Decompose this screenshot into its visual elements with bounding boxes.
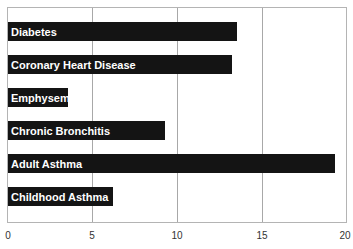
bar-chronic-bronchitis: Chronic Bronchitis (8, 121, 165, 140)
x-tick-15: 15 (256, 230, 267, 241)
bar-label: Childhood Asthma (8, 191, 108, 203)
gridline-15 (262, 8, 263, 222)
bar-diabetes: Diabetes (8, 22, 237, 41)
bar-coronary-heart-disease: Coronary Heart Disease (8, 55, 232, 74)
bar-label: Adult Asthma (8, 158, 82, 170)
bar-emphysema: Emphysema (8, 88, 68, 107)
bar-childhood-asthma: Childhood Asthma (8, 187, 113, 206)
bar-label: Emphysema (8, 92, 76, 104)
plot-area: Diabetes Coronary Heart Disease Emphysem… (7, 7, 347, 223)
x-tick-0: 0 (5, 230, 11, 241)
bar-label: Coronary Heart Disease (8, 59, 136, 71)
bar-adult-asthma: Adult Asthma (8, 154, 335, 173)
x-tick-20: 20 (339, 230, 350, 241)
x-tick-5: 5 (89, 230, 95, 241)
bar-label: Diabetes (8, 26, 57, 38)
x-tick-10: 10 (171, 230, 182, 241)
bar-label: Chronic Bronchitis (8, 125, 110, 137)
